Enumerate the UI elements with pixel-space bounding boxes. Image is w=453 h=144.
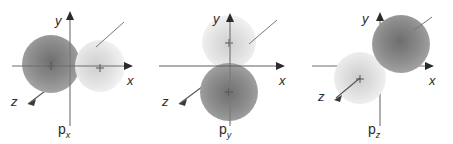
- orbital-label-px: px: [58, 122, 70, 140]
- axis-label-y-pz: y: [362, 12, 369, 25]
- orbital-panel-pz: y x z pz: [302, 0, 453, 144]
- axis-label-z-px: z: [11, 95, 18, 108]
- orbital-label-pz-base: p: [368, 121, 376, 137]
- orbital-label-py: py: [219, 122, 231, 140]
- orbital-panel-px: y x z px: [0, 0, 151, 144]
- axis-label-z-py: z: [162, 95, 169, 108]
- orbital-label-px-base: p: [58, 121, 66, 137]
- orbital-lobe-dark-pz: [372, 15, 430, 73]
- orbital-label-py-subscript: y: [227, 130, 232, 140]
- orbital-label-py-base: p: [219, 121, 227, 137]
- orbital-panel-py: y x z py: [151, 0, 302, 144]
- axis-label-y-py: y: [213, 12, 220, 25]
- axis-label-x-pz: x: [429, 74, 436, 87]
- axis-label-x-px: x: [127, 74, 134, 87]
- p-orbital-figure: y x z px: [0, 0, 453, 144]
- axis-label-y-px: y: [55, 14, 62, 27]
- orbital-label-pz: pz: [368, 122, 380, 140]
- orbital-label-px-subscript: x: [66, 130, 71, 140]
- axis-label-z-pz: z: [318, 90, 325, 103]
- axis-label-x-py: x: [279, 74, 286, 87]
- orbital-label-pz-subscript: z: [376, 130, 381, 140]
